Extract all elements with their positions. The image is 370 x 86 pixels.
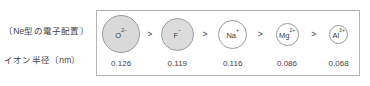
ion-charge: 2− bbox=[121, 27, 127, 33]
ion-label: Na+ bbox=[226, 30, 239, 39]
ion-label: O2− bbox=[115, 30, 127, 39]
ion-circle-o: O2− bbox=[102, 15, 140, 53]
ion-circle-na: Na+ bbox=[218, 20, 247, 49]
row-label-ionic-radius: イオン半径〔nm〕 bbox=[4, 55, 94, 65]
greater-than-separator: > bbox=[145, 29, 154, 39]
ion-circle-f: F− bbox=[161, 18, 194, 51]
row-label-electron-configuration: 〔Ne型の電子配置〕 bbox=[4, 26, 94, 36]
ion-circle-al: Al3+ bbox=[329, 25, 348, 44]
ion-value-row: 0.126>0.119>0.116>0.086>0.068 bbox=[97, 56, 359, 72]
ion-label: Al3+ bbox=[332, 30, 344, 39]
greater-than-separator: > bbox=[256, 29, 265, 39]
ion-cell: Mg2+ bbox=[265, 13, 309, 55]
ion-charge: 2+ bbox=[289, 27, 295, 33]
ionic-radius-diagram: 〔Ne型の電子配置〕 イオン半径〔nm〕 O2−>F−>Na+>Mg2+>Al3… bbox=[0, 0, 370, 86]
ion-radius-value: 0.086 bbox=[265, 56, 309, 72]
ion-radius-value: 0.116 bbox=[209, 56, 255, 72]
greater-than-separator: > bbox=[309, 29, 318, 39]
ion-cell: O2− bbox=[97, 13, 145, 55]
ion-circle-mg: Mg2+ bbox=[276, 23, 299, 46]
ion-charge: + bbox=[236, 27, 239, 33]
ion-cell: Al3+ bbox=[318, 13, 359, 55]
ion-label: Mg2+ bbox=[279, 30, 295, 39]
ion-cell: Na+ bbox=[209, 13, 255, 55]
ion-symbol: Mg bbox=[279, 30, 289, 39]
ion-radius-value: 0.068 bbox=[318, 56, 359, 72]
ion-radius-value: 0.119 bbox=[154, 56, 200, 72]
diagram-frame: O2−>F−>Na+>Mg2+>Al3+ 0.126>0.119>0.116>0… bbox=[96, 10, 360, 76]
ion-label: F− bbox=[174, 30, 182, 39]
ion-charge: − bbox=[178, 27, 181, 33]
greater-than-separator: > bbox=[201, 29, 210, 39]
ion-symbol: Na bbox=[226, 30, 236, 39]
ion-charge: 3+ bbox=[339, 27, 345, 33]
ion-radius-value: 0.126 bbox=[97, 56, 145, 72]
ion-circle-row: O2−>F−>Na+>Mg2+>Al3+ bbox=[97, 13, 359, 55]
ion-cell: F− bbox=[154, 13, 200, 55]
